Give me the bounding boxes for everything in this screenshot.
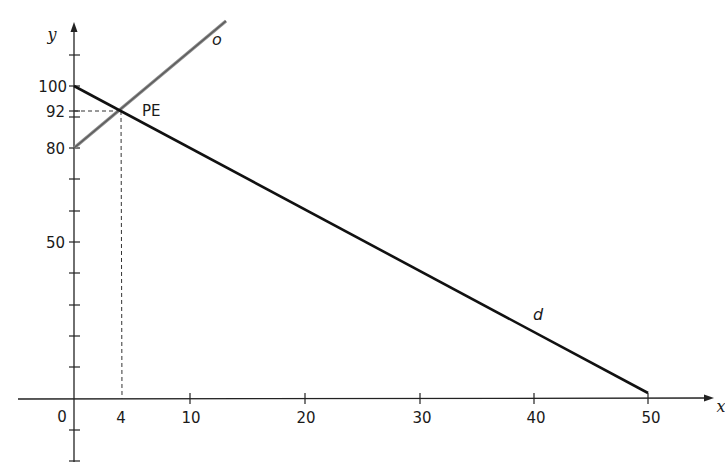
x-tick-label-20: 20 <box>296 409 315 427</box>
y-tick-label-50: 50 <box>46 234 65 252</box>
supply-label: o <box>212 30 222 49</box>
x-tick-label-10: 10 <box>181 409 200 427</box>
y-axis-label: y <box>46 25 57 44</box>
y-tick-label-100: 100 <box>38 78 67 96</box>
x-axis-label: x <box>716 397 725 416</box>
demand-label: d <box>533 305 544 324</box>
equilibrium-label: PE <box>142 102 161 120</box>
y-axis-arrow-icon <box>71 22 78 32</box>
y-tick-label-80: 80 <box>46 140 65 158</box>
equilibrium-guides <box>74 111 122 399</box>
chart-canvas: 100 92 80 50 0 4 10 20 30 40 50 y x o d … <box>0 0 725 472</box>
x-tick-label-30: 30 <box>412 409 431 427</box>
x-tick-label-40: 40 <box>526 409 545 427</box>
supply-curve-o <box>74 21 226 148</box>
x-tick-label-4: 4 <box>116 409 126 427</box>
x-tick-label-50: 50 <box>641 409 660 427</box>
x-axis-arrow-icon <box>704 395 714 402</box>
y-tick-label-92: 92 <box>46 103 65 121</box>
origin-label: 0 <box>57 408 67 426</box>
demand-curve-d <box>74 86 648 393</box>
